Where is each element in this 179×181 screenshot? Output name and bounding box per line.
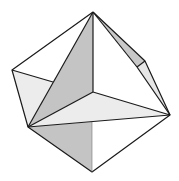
- polyhedron-figure: [0, 0, 179, 181]
- polyhedron-drawing: [0, 0, 179, 181]
- face-lower-dark: [28, 122, 92, 172]
